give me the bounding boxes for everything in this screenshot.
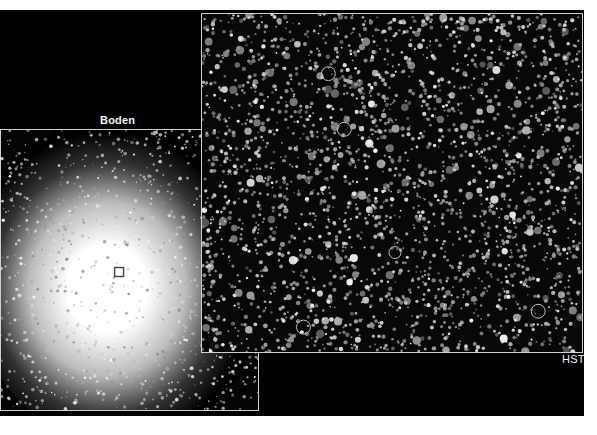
astronomy-figure: Boden HST xyxy=(0,10,584,416)
boden-label: Boden xyxy=(100,114,135,126)
hst-starfield-image xyxy=(202,14,582,352)
hst-image-panel xyxy=(201,13,583,353)
hst-label: HST xyxy=(562,353,585,365)
